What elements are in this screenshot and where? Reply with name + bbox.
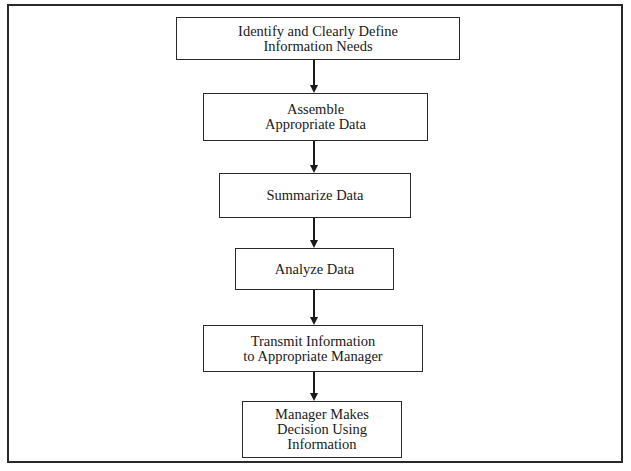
arrow-down-icon: [310, 317, 318, 325]
arrow-down-icon: [310, 393, 318, 401]
connector-line: [313, 60, 315, 86]
step-label: Transmit Information to Appropriate Mana…: [243, 334, 382, 364]
arrow-down-icon: [310, 165, 318, 173]
step-summarize-data: Summarize Data: [219, 173, 411, 218]
step-transmit-information: Transmit Information to Appropriate Mana…: [203, 325, 423, 372]
step-analyze-data: Analyze Data: [235, 248, 394, 290]
step-label: Identify and Clearly Define Information …: [238, 24, 398, 54]
step-label: Summarize Data: [266, 188, 363, 203]
step-assemble-data: Assemble Appropriate Data: [203, 93, 428, 141]
connector-line: [313, 218, 315, 241]
connector-line: [313, 290, 315, 318]
step-label: Assemble Appropriate Data: [265, 102, 366, 132]
step-label: Analyze Data: [275, 262, 354, 277]
step-label: Manager Makes Decision Using Information: [275, 407, 369, 452]
connector-line: [313, 141, 315, 166]
arrow-down-icon: [310, 240, 318, 248]
step-manager-decision: Manager Makes Decision Using Information: [242, 401, 402, 458]
arrow-down-icon: [310, 85, 318, 93]
step-identify-information-needs: Identify and Clearly Define Information …: [176, 17, 460, 60]
connector-line: [313, 372, 315, 394]
